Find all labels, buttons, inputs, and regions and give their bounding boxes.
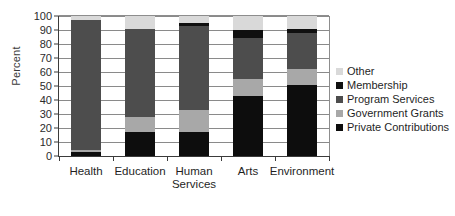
legend-label: Program Services [347, 93, 434, 105]
x-tick-mark [329, 156, 330, 161]
bar-segment[interactable] [287, 69, 317, 84]
bar-segment[interactable] [71, 150, 101, 151]
x-tick-mark [275, 156, 276, 161]
legend-label: Government Grants [347, 107, 444, 119]
bar-slot [221, 16, 275, 156]
bar-slot [113, 16, 167, 156]
y-tick-label: 100 [34, 10, 52, 22]
y-axis-title: Percent [10, 26, 22, 106]
bar-slot [275, 16, 329, 156]
bar-segment[interactable] [233, 96, 263, 156]
x-axis-label-environment: Environment [270, 165, 335, 178]
bar-segment[interactable] [287, 29, 317, 33]
legend-label: Membership [347, 79, 408, 91]
y-tick-label: 20 [40, 122, 52, 134]
bar-segment[interactable] [125, 29, 155, 117]
legend-label: Private Contributions [347, 121, 449, 133]
stacked-bar[interactable] [125, 16, 155, 156]
stacked-bar[interactable] [179, 16, 209, 156]
bar-segment[interactable] [233, 79, 263, 96]
bar-segment[interactable] [179, 23, 209, 26]
legend-item[interactable]: Membership [336, 78, 454, 92]
bar-segment[interactable] [233, 30, 263, 38]
bar-segment[interactable] [125, 117, 155, 132]
legend-item[interactable]: Government Grants [336, 106, 454, 120]
x-tick-mark [167, 156, 168, 161]
y-tick-label: 10 [40, 136, 52, 148]
bar-segment[interactable] [287, 85, 317, 156]
bar-segment[interactable] [233, 16, 263, 30]
plot-area: 0102030405060708090100 HealthEducationHu… [58, 16, 329, 157]
x-axis-label-education: Education [114, 165, 165, 178]
legend-swatch-icon [336, 68, 343, 75]
legend-swatch-icon [336, 96, 343, 103]
legend-swatch-icon [336, 124, 343, 131]
stacked-bar[interactable] [233, 16, 263, 156]
y-tick-label: 50 [40, 80, 52, 92]
bar-segment[interactable] [125, 132, 155, 156]
chart-legend: OtherMembershipProgram ServicesGovernmen… [336, 64, 454, 134]
bar-segment[interactable] [179, 132, 209, 156]
y-tick-label: 0 [46, 150, 52, 162]
bar-slot [167, 16, 221, 156]
legend-label: Other [347, 65, 375, 77]
x-tick-mark [221, 156, 222, 161]
y-tick-label: 90 [40, 24, 52, 36]
y-tick-label: 30 [40, 108, 52, 120]
stacked-bar-chart: Percent 0102030405060708090100 HealthEdu… [0, 0, 455, 216]
bar-segment[interactable] [125, 16, 155, 29]
bar-segment[interactable] [71, 16, 101, 20]
stacked-bar[interactable] [287, 16, 317, 156]
bar-segment[interactable] [287, 16, 317, 29]
x-axis-label-health: Health [69, 165, 102, 178]
bar-segment[interactable] [233, 38, 263, 79]
x-axis-label-arts: Arts [238, 165, 258, 178]
x-tick-mark [59, 156, 60, 161]
y-tick-label: 40 [40, 94, 52, 106]
bar-segment[interactable] [71, 20, 101, 150]
bar-segment[interactable] [179, 26, 209, 110]
x-axis-label-human-services: Human Services [172, 165, 216, 191]
legend-item[interactable]: Program Services [336, 92, 454, 106]
legend-item[interactable]: Private Contributions [336, 120, 454, 134]
bar-segment[interactable] [287, 33, 317, 69]
legend-item[interactable]: Other [336, 64, 454, 78]
y-tick-label: 60 [40, 66, 52, 78]
bar-segment[interactable] [179, 110, 209, 132]
stacked-bar[interactable] [71, 16, 101, 156]
y-tick-label: 80 [40, 38, 52, 50]
bar-slot [59, 16, 113, 156]
bar-segment[interactable] [71, 152, 101, 156]
x-tick-mark [113, 156, 114, 161]
legend-swatch-icon [336, 110, 343, 117]
y-tick-label: 70 [40, 52, 52, 64]
legend-swatch-icon [336, 82, 343, 89]
plot-frame-right-border [329, 16, 330, 156]
bar-segment[interactable] [179, 16, 209, 23]
